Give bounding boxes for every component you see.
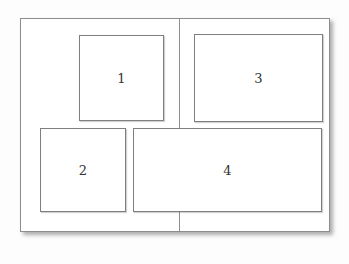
layout-block-1-label: 1 (117, 72, 125, 85)
layout-block-4[interactable]: 4 (133, 128, 322, 212)
diagram-canvas: 1 3 2 4 (0, 0, 349, 264)
layout-block-4-label: 4 (223, 164, 231, 177)
layout-block-2-label: 2 (79, 164, 87, 177)
page-frame: 1 3 2 4 (20, 18, 330, 232)
layout-block-3-label: 3 (254, 72, 262, 85)
layout-block-3[interactable]: 3 (194, 34, 323, 122)
layout-block-1[interactable]: 1 (79, 35, 164, 121)
layout-block-2[interactable]: 2 (40, 128, 126, 212)
